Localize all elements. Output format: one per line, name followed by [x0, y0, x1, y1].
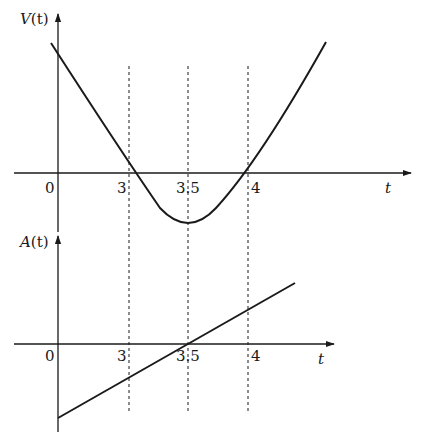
- top-tick-3: 3: [117, 179, 127, 197]
- velocity-acceleration-diagram: V(t) t 0 3 3.5 4 A(t) t 0 3 3.5 4: [0, 0, 421, 439]
- bottom-graph-at: A(t) t 0 3 3.5 4: [14, 233, 334, 432]
- bottom-tick-3: 3: [117, 347, 127, 365]
- top-tick-0: 0: [45, 179, 55, 197]
- svg-text:A(t): A(t): [18, 233, 49, 251]
- top-graph-vt: V(t) t 0 3 3.5 4: [14, 10, 411, 232]
- top-tick-4: 4: [251, 179, 261, 197]
- bottom-xlabel: t: [318, 350, 325, 368]
- top-tick-35: 3.5: [176, 179, 200, 197]
- top-xlabel: t: [385, 179, 392, 197]
- bottom-tick-0: 0: [45, 347, 55, 365]
- bottom-tick-35: 3.5: [176, 347, 200, 365]
- bottom-tick-4: 4: [251, 347, 261, 365]
- svg-text:V(t): V(t): [20, 10, 49, 28]
- bottom-ylabel: A: [18, 233, 31, 251]
